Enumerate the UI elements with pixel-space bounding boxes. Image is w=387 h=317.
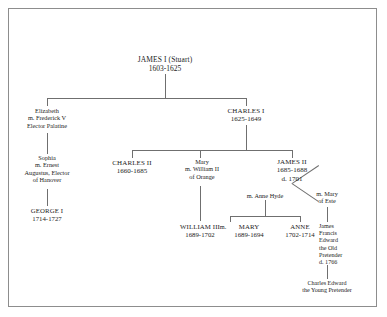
node-james2[interactable]: JAMES II 1685-1688 d. 1701 (277, 158, 307, 183)
node-old-pretender-l3: Edward (319, 237, 342, 244)
node-william3-dates: 1689-1702 (180, 231, 220, 239)
node-old-pretender-l2: Francis (319, 230, 342, 237)
node-old-pretender[interactable]: James Francis Edward the Old Pretender d… (319, 223, 342, 266)
node-william3[interactable]: WILLIAM III 1689-1702 (180, 223, 220, 239)
node-mary-este-name: m. Mary (316, 190, 338, 197)
node-charles2[interactable]: CHARLES II 1660-1685 (112, 159, 151, 176)
node-mary2-dates: 1689-1694 (234, 231, 263, 239)
node-george1[interactable]: GEORGE I 1714-1727 (31, 207, 63, 223)
node-mary-este-title: of Este (316, 197, 338, 204)
node-marriage-symbol: m. (220, 223, 226, 230)
node-sophia-name: Sophia (24, 154, 69, 161)
connector-oldpretender-youngpretender (327, 265, 328, 279)
node-anne-name: ANNE (285, 223, 314, 231)
node-sophia[interactable]: Sophia m. Ernest Augustus, Elector of Ha… (24, 154, 69, 184)
connector-children-bar-annehyde (230, 216, 300, 217)
node-sophia-title-2: of Hanover (24, 176, 69, 183)
node-mary-este[interactable]: m. Mary of Este (316, 190, 338, 205)
node-mary-orange-spouse: m. William II (185, 165, 219, 172)
connector-to-anne (300, 216, 301, 222)
node-james2-dates: 1685-1688 (277, 166, 307, 174)
connector-to-charles2 (132, 150, 133, 158)
node-elizabeth-name: Elizabeth (27, 107, 67, 114)
connector-charles1-down (246, 125, 247, 150)
marriage-symbol-label: m. (220, 223, 226, 230)
node-sophia-spouse: m. Ernest (24, 161, 69, 168)
node-mary2[interactable]: MARY 1689-1694 (234, 223, 263, 239)
node-sophia-title-1: Augustus, Elector (24, 169, 69, 176)
connector-james2-maryeste (291, 183, 318, 202)
node-elizabeth[interactable]: Elizabeth m. Frederick V Elector Palatin… (27, 107, 67, 129)
family-tree-diagram: JAMES I (Stuart) 1603-1625 Elizabeth m. … (8, 8, 377, 307)
node-mary2-name: MARY (234, 223, 263, 231)
node-charles2-dates: 1660-1685 (112, 167, 151, 175)
node-anne-hyde[interactable]: m. Anne Hyde (247, 192, 284, 199)
node-elizabeth-spouse: m. Frederick V (27, 114, 67, 121)
connector-to-james2 (292, 150, 293, 158)
node-old-pretender-l5: Pretender (319, 252, 342, 259)
node-charles1[interactable]: CHARLES I 1625-1649 (228, 107, 265, 124)
node-james1-dates: 1603-1625 (138, 65, 193, 74)
connector-maryeste-oldpretender (327, 207, 328, 222)
node-anne-dates: 1702-1714 (285, 231, 314, 239)
connector-to-mary2 (230, 216, 231, 222)
connector-sibling-bar-gen1 (47, 98, 247, 99)
connector-james1-down (165, 74, 166, 98)
node-mary-orange[interactable]: Mary m. William II of Orange (185, 158, 219, 180)
node-mary-orange-title: of Orange (185, 173, 219, 180)
node-young-pretender[interactable]: Charles Edward the Young Pretender (302, 280, 352, 294)
connector-sibling-bar-gen2 (132, 150, 292, 151)
node-james2-death: d. 1701 (277, 175, 307, 183)
connector-to-mary-orange (200, 150, 201, 158)
connector-sophia-george1 (47, 189, 48, 206)
connector-mary-orange-william3 (200, 186, 201, 221)
node-james2-name: JAMES II (277, 158, 307, 166)
node-young-pretender-name: Charles Edward (302, 280, 352, 287)
node-george1-dates: 1714-1727 (31, 215, 63, 223)
node-charles1-name: CHARLES I (228, 107, 265, 115)
connector-elizabeth-sophia (47, 133, 48, 154)
node-elizabeth-title: Elector Palatine (27, 122, 67, 129)
node-william3-name: WILLIAM III (180, 223, 220, 231)
node-james1[interactable]: JAMES I (Stuart) 1603-1625 (138, 56, 193, 74)
node-old-pretender-l6: d. 1766 (319, 259, 342, 266)
connector-annehyde-down (265, 200, 266, 216)
node-young-pretender-title: the Young Pretender (302, 287, 352, 294)
node-charles1-dates: 1625-1649 (228, 115, 265, 123)
node-old-pretender-l4: the Old (319, 245, 342, 252)
connector-to-elizabeth (47, 98, 48, 106)
node-mary-orange-name: Mary (185, 158, 219, 165)
node-old-pretender-l1: James (319, 223, 342, 230)
node-anne-hyde-name: m. Anne Hyde (247, 192, 284, 199)
node-george1-name: GEORGE I (31, 207, 63, 215)
node-anne[interactable]: ANNE 1702-1714 (285, 223, 314, 239)
node-charles2-name: CHARLES II (112, 159, 151, 167)
connector-to-charles1 (246, 98, 247, 106)
